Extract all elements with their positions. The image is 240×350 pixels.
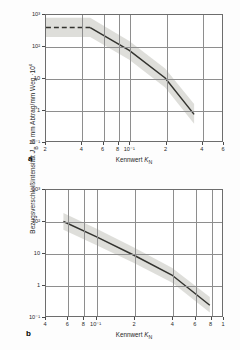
gridline-vertical — [167, 15, 168, 141]
gridline-vertical — [173, 190, 174, 316]
x-tick-mark — [83, 317, 84, 320]
figure-container: Bezugsverschleißintensität JB in mm Abtr… — [0, 0, 240, 350]
x-tick-mark — [223, 142, 224, 145]
y-tick-mark — [42, 221, 45, 222]
x-tick-mark — [129, 142, 130, 145]
y-tick-label: 10⁻¹ — [21, 139, 40, 145]
x-tick-label: 4 — [43, 321, 46, 327]
x-axis-label-text-b: Kennwert — [116, 331, 144, 338]
gridline-vertical — [135, 190, 136, 316]
x-tick-label: 4 — [200, 146, 203, 152]
x-axis-title-a: Kennwert KN — [116, 156, 152, 165]
x-tick-mark — [81, 142, 82, 145]
curve-a — [46, 15, 222, 141]
x-tick-label: 1 — [221, 321, 224, 327]
x-tick-label: 6 — [221, 146, 224, 152]
y-axis-units-exponent: 6 — [28, 64, 33, 67]
x-tick-label: 8 — [116, 146, 119, 152]
x-axis-title-b: Kennwert KN — [116, 331, 152, 340]
x-tick-label: 2 — [164, 146, 167, 152]
x-tick-mark — [166, 142, 167, 145]
y-tick-label: 1 — [21, 282, 40, 288]
y-tick-mark — [42, 110, 45, 111]
x-tick-mark — [211, 317, 212, 320]
x-tick-label: 6 — [101, 146, 104, 152]
y-tick-label: 10³ — [21, 186, 40, 192]
plot-area-b: 46810⁻¹2468110³10²10110⁻¹ — [45, 189, 223, 317]
x-tick-mark — [103, 142, 104, 145]
x-tick-label: 4 — [80, 146, 83, 152]
y-tick-mark — [42, 14, 45, 15]
gridline-vertical — [203, 15, 204, 141]
scatter-band-a — [46, 18, 194, 124]
x-tick-mark — [172, 317, 173, 320]
y-tick-mark — [42, 253, 45, 254]
gridline-vertical — [84, 190, 85, 316]
gridline-vertical — [130, 15, 131, 141]
y-axis-symbol-subscript: B — [33, 146, 39, 150]
panel-b-label: b — [26, 329, 31, 338]
plot-area-a: 246810⁻¹24610³10²10110⁻¹ — [45, 14, 223, 142]
x-tick-mark — [45, 317, 46, 320]
y-tick-label: 10² — [21, 43, 40, 49]
gridline-horizontal — [46, 79, 222, 80]
gridline-horizontal — [46, 254, 222, 255]
x-tick-label: 6 — [66, 321, 69, 327]
y-tick-mark — [42, 285, 45, 286]
x-tick-label: 10⁻¹ — [90, 321, 101, 327]
y-tick-mark — [42, 142, 45, 143]
y-tick-mark — [42, 78, 45, 79]
x-tick-label: 8 — [82, 321, 85, 327]
x-tick-label: 4 — [171, 321, 174, 327]
x-tick-mark — [118, 142, 119, 145]
gridline-vertical — [104, 15, 105, 141]
gridline-horizontal — [46, 222, 222, 223]
plot-frame-b — [45, 189, 223, 317]
y-tick-label: 10² — [21, 218, 40, 224]
gridline-vertical — [82, 15, 83, 141]
gridline-horizontal — [46, 111, 222, 112]
x-tick-mark — [223, 317, 224, 320]
x-tick-label: 6 — [193, 321, 196, 327]
x-tick-mark — [96, 317, 97, 320]
y-axis-title: Bezugsverschleißintensität JB in mm Abtr… — [29, 54, 38, 244]
x-tick-mark — [134, 317, 135, 320]
gridline-vertical — [97, 190, 98, 316]
y-tick-label: 1 — [21, 107, 40, 113]
gridline-vertical — [68, 190, 69, 316]
x-tick-mark — [195, 317, 196, 320]
x-tick-label: 8 — [209, 321, 212, 327]
y-tick-label: 10³ — [21, 11, 40, 17]
x-axis-label-text-a: Kennwert — [116, 156, 144, 163]
y-tick-mark — [42, 189, 45, 190]
gridline-vertical — [212, 190, 213, 316]
x-tick-label: 2 — [132, 321, 135, 327]
gridline-vertical — [119, 15, 120, 141]
panel-a-label: a — [28, 154, 32, 163]
x-tick-label: 10⁻¹ — [124, 146, 135, 152]
y-tick-mark — [42, 46, 45, 47]
y-tick-label: 10 — [21, 250, 40, 256]
x-tick-mark — [202, 142, 203, 145]
x-tick-mark — [67, 317, 68, 320]
x-axis-symbol-subscript-a: N — [148, 159, 152, 165]
y-tick-mark — [42, 317, 45, 318]
gridline-horizontal — [46, 47, 222, 48]
gridline-vertical — [196, 190, 197, 316]
scatter-band-b — [63, 213, 209, 312]
y-tick-label: 10⁻¹ — [21, 314, 40, 320]
x-axis-symbol-subscript-b: N — [148, 334, 152, 340]
x-tick-label: 2 — [43, 146, 46, 152]
y-tick-label: 10 — [21, 75, 40, 81]
x-tick-mark — [45, 142, 46, 145]
plot-frame-a — [45, 14, 223, 142]
y-axis-symbol: J — [29, 150, 36, 153]
gridline-horizontal — [46, 286, 222, 287]
